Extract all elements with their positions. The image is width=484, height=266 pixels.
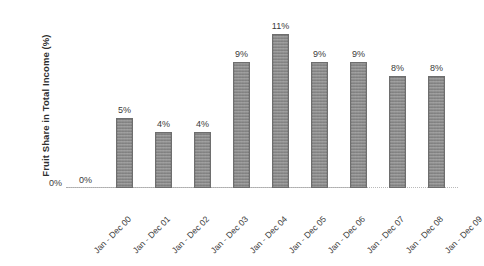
y-axis-tick-label-0: 0%	[40, 178, 62, 188]
x-axis-category-labels: Jan - Dec 00 Jan - Dec 01 Jan - Dec 02 J…	[66, 188, 456, 266]
x-label-slot: Jan - Dec 06	[300, 188, 339, 266]
x-label-slot: Jan - Dec 05	[261, 188, 300, 266]
bar[interactable]	[116, 118, 133, 188]
x-label-slot: Jan - Dec 03	[183, 188, 222, 266]
bar-slot: 8%	[378, 20, 417, 188]
bar-slot: 4%	[183, 20, 222, 188]
bar-value-label: 4%	[183, 119, 222, 129]
bar-value-label: 8%	[417, 63, 456, 73]
bar-series: 0% 5% 4% 4% 9% 11%	[66, 20, 456, 188]
bar[interactable]	[194, 132, 211, 188]
bar-value-label: 9%	[222, 49, 261, 59]
bar-slot: 9%	[222, 20, 261, 188]
bar-slot: 4%	[144, 20, 183, 188]
bar-value-label: 8%	[378, 63, 417, 73]
bar[interactable]	[155, 132, 172, 188]
bar[interactable]	[233, 62, 250, 188]
bar[interactable]	[272, 34, 289, 188]
x-axis-label: Jan - Dec 09	[420, 214, 484, 266]
bar-value-label: 4%	[144, 119, 183, 129]
bar-value-label: 9%	[300, 49, 339, 59]
x-label-slot: Jan - Dec 09	[417, 188, 456, 266]
x-label-slot: Jan - Dec 00	[66, 188, 105, 266]
x-label-slot: Jan - Dec 02	[144, 188, 183, 266]
x-label-slot: Jan - Dec 08	[378, 188, 417, 266]
x-label-slot: Jan - Dec 01	[105, 188, 144, 266]
bar-slot: 5%	[105, 20, 144, 188]
bar[interactable]	[428, 76, 445, 188]
bar-slot: 8%	[417, 20, 456, 188]
bar-slot: 9%	[339, 20, 378, 188]
plot-area: 0% 5% 4% 4% 9% 11%	[66, 20, 456, 188]
bar-value-label: 9%	[339, 49, 378, 59]
bar[interactable]	[311, 62, 328, 188]
bar-value-label: 0%	[66, 175, 105, 185]
bar-value-label: 11%	[261, 21, 300, 31]
bar-value-label: 5%	[105, 105, 144, 115]
x-label-slot: Jan - Dec 04	[222, 188, 261, 266]
bar-slot: 11%	[261, 20, 300, 188]
y-axis-title: Fruit Share in Total Income (%)	[40, 16, 51, 196]
bar-slot: 9%	[300, 20, 339, 188]
bar[interactable]	[350, 62, 367, 188]
bar-slot: 0%	[66, 20, 105, 188]
bar[interactable]	[389, 76, 406, 188]
x-label-slot: Jan - Dec 07	[339, 188, 378, 266]
